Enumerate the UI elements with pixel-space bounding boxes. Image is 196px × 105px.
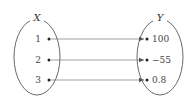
mapping-diagram: X Y 1 2 3 100 −55 0.8	[0, 0, 196, 105]
codomain-point-1	[146, 38, 149, 41]
domain-element-2: 2	[35, 55, 41, 65]
domain-point-1	[48, 38, 51, 41]
domain-point-2	[48, 59, 51, 62]
codomain-element-2: −55	[152, 55, 171, 65]
codomain-point-3	[146, 79, 149, 82]
domain-element-1: 1	[35, 34, 41, 44]
codomain-point-2	[146, 59, 149, 62]
codomain-element-1: 100	[152, 34, 169, 44]
domain-elements: 1 2 3	[35, 34, 50, 85]
domain-element-3: 3	[35, 75, 41, 85]
codomain-element-3: 0.8	[152, 75, 167, 85]
codomain-elements: 100 −55 0.8	[146, 34, 172, 85]
mapping-arrows	[51, 39, 144, 80]
set-x-label: X	[32, 12, 41, 23]
domain-point-3	[48, 79, 51, 82]
